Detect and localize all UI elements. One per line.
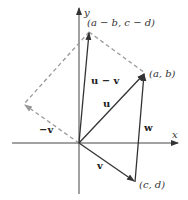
point-label-u: (a, b) <box>149 68 176 79</box>
v-vector <box>79 143 134 181</box>
vector-label-neg-v: −v <box>39 124 54 135</box>
vector-label-u: u <box>103 98 110 109</box>
dashed-top-right <box>89 32 145 73</box>
vector-label-u-minus-v: u − v <box>91 75 121 86</box>
vector-label-v: v <box>96 160 104 171</box>
point-label-u-minus-v: (a − b, c − d) <box>87 17 155 28</box>
w-vector <box>135 74 144 182</box>
x-axis-label: x <box>172 129 178 140</box>
vector-label-w: w <box>143 122 153 133</box>
vector-diagram: x y (a − b, c − d) (a, b) (c, d) u − v u… <box>0 0 188 200</box>
point-label-v: (c, d) <box>139 179 165 190</box>
u-minus-v-vector <box>79 33 89 143</box>
